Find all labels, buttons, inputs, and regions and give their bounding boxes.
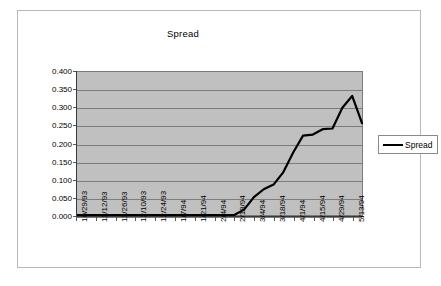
y-axis-tick-label: 0.350 — [32, 85, 72, 94]
legend-swatch-spread — [383, 144, 403, 146]
x-axis-tick-mark — [333, 217, 334, 221]
x-axis-tick-label: 4/29/94 — [337, 195, 346, 222]
x-axis-tick-label: 2/18/94 — [238, 195, 247, 222]
y-axis-tick-label: 0.000 — [32, 212, 72, 221]
x-axis-tick-mark — [294, 217, 295, 221]
x-axis-tick-mark — [215, 217, 216, 221]
x-axis-tick-label: 1/7/94 — [179, 200, 188, 222]
x-axis-tick-mark — [274, 217, 275, 221]
x-axis-tick-label: 1/21/94 — [199, 195, 208, 222]
x-axis-tick-label: 4/15/94 — [318, 195, 327, 222]
x-axis-tick-label: 4/1/94 — [298, 200, 307, 222]
x-axis-tick-mark — [76, 217, 77, 221]
x-axis-tick-label: 2/4/94 — [219, 200, 228, 222]
y-axis-tick-label: 0.200 — [32, 139, 72, 148]
y-axis-tick-label: 0.150 — [32, 157, 72, 166]
x-axis-tick-mark — [353, 217, 354, 221]
x-axis-tick-mark — [195, 217, 196, 221]
y-axis-tick-label: 0.100 — [32, 175, 72, 184]
x-axis-tick-mark — [96, 217, 97, 221]
y-axis-tick-label: 0.400 — [32, 67, 72, 76]
x-axis-tick-label: 3/18/94 — [278, 195, 287, 222]
y-axis-line — [76, 71, 77, 217]
x-axis-tick-label: 12/24/93 — [159, 191, 168, 222]
x-axis-tick-mark — [234, 217, 235, 221]
x-axis-tick-mark — [155, 217, 156, 221]
legend: Spread — [378, 135, 438, 154]
x-axis-tick-mark — [175, 217, 176, 221]
legend-label-spread: Spread — [405, 140, 432, 150]
x-axis-tick-mark — [314, 217, 315, 221]
y-axis-tick-label: 0.050 — [32, 193, 72, 202]
chart-container: Spread 0.4000.3500.3000.2500.2000.1500.1… — [0, 0, 441, 286]
x-axis-tick-mark — [116, 217, 117, 221]
x-axis-tick-label: 11/26/93 — [120, 191, 129, 222]
y-axis-tick-label: 0.250 — [32, 121, 72, 130]
chart-title: Spread — [18, 28, 348, 39]
y-axis-tick-label: 0.300 — [32, 103, 72, 112]
x-axis-tick-label: 11/12/93 — [100, 191, 109, 222]
x-axis-tick-label: 12/10/93 — [139, 191, 148, 222]
x-axis-tick-mark — [135, 217, 136, 221]
chart-frame: Spread 0.4000.3500.3000.2500.2000.1500.1… — [17, 10, 421, 268]
x-axis-tick-label: 10/29/93 — [80, 191, 89, 222]
x-axis-tick-label: 3/4/94 — [258, 200, 267, 222]
x-axis-tick-label: 5/13/94 — [357, 195, 366, 222]
x-axis-tick-mark — [254, 217, 255, 221]
